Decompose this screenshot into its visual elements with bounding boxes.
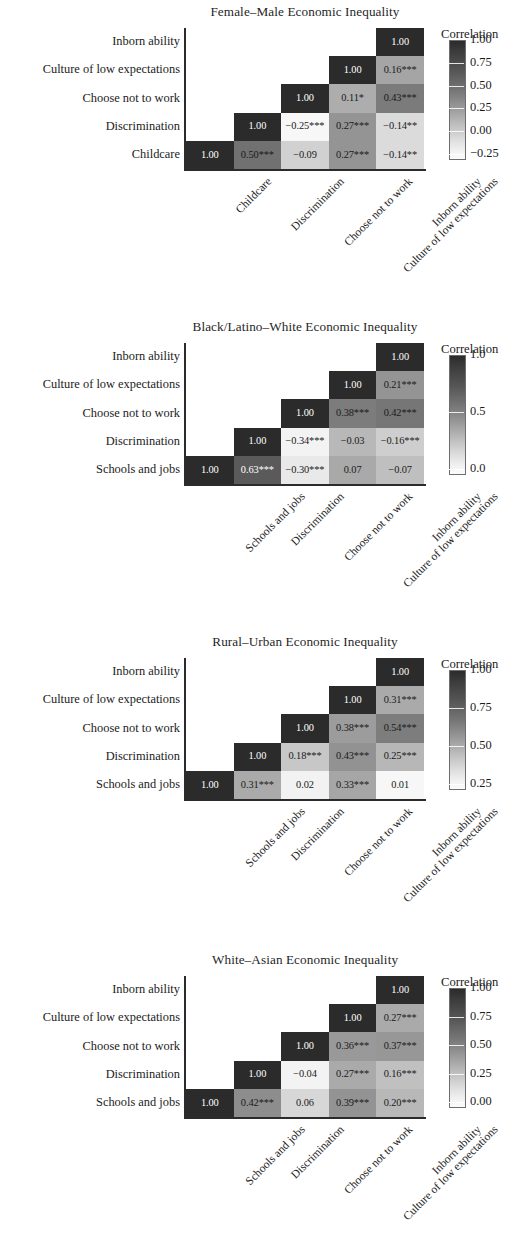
panel-2: Black/Latino–White Economic Inequality1.… (0, 315, 524, 630)
cell-value: 0.27*** (384, 1013, 417, 1023)
y-axis-tick-label: Inborn ability (112, 664, 180, 679)
colorbar-tick-mark (449, 1102, 464, 1103)
heatmap-plot: 1.001.000.16***1.000.11*0.43***1.00−0.25… (186, 28, 424, 169)
cell-value: 0.42*** (241, 1098, 274, 1108)
cell-value: 0.07 (344, 465, 362, 475)
colorbar-tick-mark (449, 108, 464, 109)
cell-value: 1.00 (201, 150, 219, 160)
cell-value: 0.33*** (336, 780, 369, 790)
cell-value: 1.00 (391, 37, 409, 47)
heatmap-cell: 0.37*** (376, 1032, 424, 1060)
heatmap-cell: 1.00 (186, 141, 234, 169)
heatmap-cell: 0.27*** (376, 1004, 424, 1032)
cell-value: −0.16*** (381, 436, 420, 446)
heatmap-cell: −0.07 (376, 456, 424, 484)
cell-value: 1.00 (391, 667, 409, 677)
cell-value: 0.20*** (384, 1098, 417, 1108)
heatmap-cell: 0.27*** (329, 113, 377, 141)
heatmap-cell: 0.42*** (234, 1089, 282, 1117)
cell-value: 0.54*** (384, 723, 417, 733)
panel-3: Rural–Urban Economic Inequality1.001.000… (0, 630, 524, 945)
x-axis-tick-label: Choose not to work (342, 490, 416, 564)
cell-value: 0.25*** (384, 751, 417, 761)
panel-1: Female–Male Economic Inequality1.001.000… (0, 0, 524, 315)
cell-value: 0.43*** (384, 93, 417, 103)
y-axis-tick-label: Culture of low expectations (43, 62, 180, 77)
colorbar-tick-mark (449, 708, 464, 709)
colorbar-tick-label: 0.25 (470, 1066, 492, 1081)
colorbar-tick-label: 0.00 (470, 1094, 492, 1109)
heatmap-cell: −0.09 (281, 141, 329, 169)
heatmap-cell: 0.11* (329, 84, 377, 112)
x-axis-tick-label: Culture of low expectations (401, 175, 501, 275)
heatmap-cell: 1.00 (329, 1004, 377, 1032)
cell-value: 0.31*** (384, 695, 417, 705)
heatmap-cell: 0.20*** (376, 1089, 424, 1117)
cell-value: −0.14** (383, 121, 417, 131)
heatmap-cell: 0.33*** (329, 771, 377, 799)
x-axis-line (184, 169, 426, 171)
colorbar-tick-mark (449, 154, 464, 155)
cell-value: 0.63*** (241, 465, 274, 475)
panel-4: White–Asian Economic Inequality1.001.000… (0, 948, 524, 1250)
colorbar-legend: Correlation1.000.750.500.250.00 (0, 948, 524, 949)
cell-value: 1.00 (391, 352, 409, 362)
heatmap-cell: 0.18*** (281, 743, 329, 771)
heatmap-cell: 0.38*** (329, 399, 377, 427)
cell-value: 0.11* (341, 93, 364, 103)
y-axis-tick-label: Schools and jobs (96, 777, 180, 792)
y-axis-tick-label: Childcare (132, 147, 180, 162)
colorbar-tick-label: 0.25 (470, 100, 492, 115)
panel-title: Female–Male Economic Inequality (140, 4, 470, 20)
y-axis-tick-label: Culture of low expectations (43, 1010, 180, 1025)
heatmap-cell: −0.16*** (376, 428, 424, 456)
heatmap-plot: 1.001.000.21***1.000.38***0.42***1.00−0.… (186, 343, 424, 484)
colorbar-tick-mark (449, 1017, 464, 1018)
heatmap-cell: 0.36*** (329, 1032, 377, 1060)
heatmap-plot: 1.001.000.31***1.000.38***0.54***1.000.1… (186, 658, 424, 799)
cell-value: 1.00 (344, 65, 362, 75)
x-axis-tick-label: Choose not to work (342, 175, 416, 249)
heatmap-cell: 1.00 (234, 1061, 282, 1089)
colorbar-tick-label: 1.00 (470, 980, 492, 995)
colorbar-gradient (449, 670, 466, 790)
heatmap-cell: 1.00 (234, 113, 282, 141)
cell-value: 1.00 (201, 465, 219, 475)
heatmap-cell: 1.00 (376, 658, 424, 686)
colorbar-legend: Correlation1.00.50.0 (0, 315, 524, 316)
y-axis-tick-label: Culture of low expectations (43, 377, 180, 392)
heatmap-cell: 1.00 (281, 399, 329, 427)
colorbar-tick-label: 0.5 (470, 404, 486, 419)
colorbar-tick-mark (449, 131, 464, 132)
y-axis-tick-label: Choose not to work (83, 721, 180, 736)
heatmap-cell: 0.43*** (376, 84, 424, 112)
colorbar-gradient (449, 40, 466, 160)
cell-value: −0.14** (383, 150, 417, 160)
x-axis-line (184, 484, 426, 486)
cell-value: 0.16*** (384, 1069, 417, 1079)
heatmap-cell: 0.27*** (329, 1061, 377, 1089)
colorbar-tick-mark (449, 1074, 464, 1075)
colorbar-tick-mark (449, 1045, 464, 1046)
cell-value: 1.00 (344, 380, 362, 390)
cell-value: 0.43*** (336, 751, 369, 761)
cell-value: 0.42*** (384, 408, 417, 418)
heatmap-cell: 0.02 (281, 771, 329, 799)
cell-value: 1.00 (344, 695, 362, 705)
cell-value: 0.38*** (336, 408, 369, 418)
heatmap-cell: 1.00 (281, 714, 329, 742)
panel-title: White–Asian Economic Inequality (140, 952, 470, 968)
heatmap-cell: −0.30*** (281, 456, 329, 484)
colorbar-gradient (449, 355, 466, 475)
heatmap-cell: −0.03 (329, 428, 377, 456)
cell-value: 1.00 (248, 436, 266, 446)
colorbar-tick-label: 0.75 (470, 55, 492, 70)
colorbar-tick-label: 0.50 (470, 1037, 492, 1052)
heatmap-cell: 1.00 (281, 84, 329, 112)
y-axis-tick-label: Discrimination (106, 434, 180, 449)
colorbar-tick-label: −0.25 (470, 146, 499, 161)
cell-value: 0.36*** (336, 1041, 369, 1051)
colorbar-tick-label: 1.00 (470, 662, 492, 677)
heatmap-cell: 0.16*** (376, 56, 424, 84)
heatmap-cell: 0.50*** (234, 141, 282, 169)
